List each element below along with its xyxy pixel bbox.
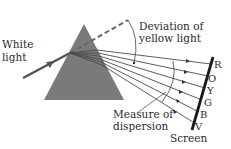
spectrum-r: R xyxy=(214,59,222,70)
deviation-arc xyxy=(128,20,136,63)
spectrum-b: B xyxy=(200,109,207,120)
white-light-label-2: light xyxy=(2,51,27,63)
screen-label: Screen xyxy=(170,132,208,144)
spectrum-g: G xyxy=(204,97,212,108)
dispersion-label-2: dispersion xyxy=(113,120,168,132)
spectrum-y: Y xyxy=(206,85,214,96)
deviation-label-1: Deviation of xyxy=(139,20,205,32)
deviation-label-2: yellow light xyxy=(138,32,202,44)
spectrum-o: O xyxy=(208,73,216,84)
spectrum-v: V xyxy=(194,121,203,132)
prism-dispersion-diagram: White light Deviation of yellow light Me… xyxy=(0,0,231,149)
white-light-label-1: White xyxy=(2,38,33,50)
dispersion-label-1: Measure of xyxy=(113,108,174,120)
deviation-point xyxy=(133,62,135,64)
prism xyxy=(44,24,124,100)
